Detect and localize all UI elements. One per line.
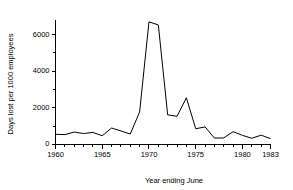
y-axis-tick-label: 6000 <box>33 30 50 39</box>
y-axis-tick-label: 4000 <box>33 66 50 75</box>
chart-plot-area: 0200040006000 196019651970197519801983 Y… <box>0 0 293 190</box>
y-axis-tick-label: 2000 <box>33 103 50 112</box>
x-axis-tick-label: 1975 <box>187 150 204 159</box>
x-axis-tick-label: 1965 <box>94 150 111 159</box>
data-series-group <box>56 22 271 139</box>
x-axis: 196019651970197519801983 <box>47 145 279 159</box>
x-axis-title: Year ending June <box>145 176 203 185</box>
line-chart: 0200040006000 196019651970197519801983 Y… <box>0 0 293 190</box>
x-axis-tick-label: 1970 <box>141 150 158 159</box>
y-axis: 0200040006000 <box>33 20 56 148</box>
x-axis-tick-label: 1980 <box>234 150 251 159</box>
series-line <box>56 22 271 139</box>
y-axis-title: Days lost per 1000 employees <box>6 33 15 134</box>
y-axis-tick-label: 0 <box>45 139 49 148</box>
x-axis-tick-label: 1960 <box>47 150 64 159</box>
x-axis-tick-label: 1983 <box>262 150 279 159</box>
